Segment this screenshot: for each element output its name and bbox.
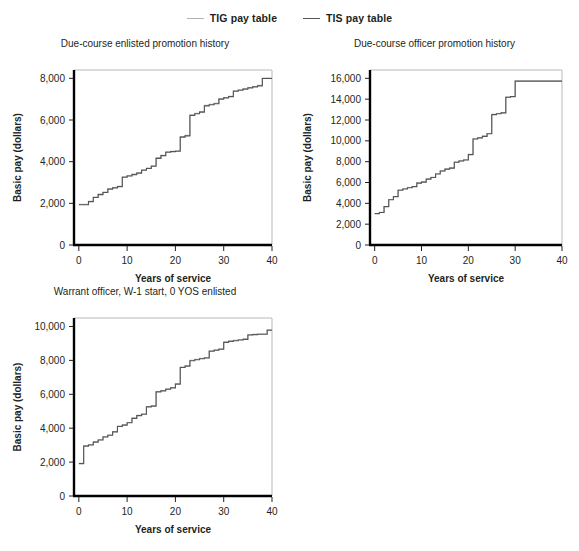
svg-text:30: 30: [218, 255, 230, 266]
series-line-tig: [375, 81, 562, 214]
svg-text:4,000: 4,000: [40, 423, 65, 434]
svg-text:0: 0: [76, 255, 82, 266]
svg-text:6,000: 6,000: [40, 389, 65, 400]
svg-text:8,000: 8,000: [40, 73, 65, 84]
svg-text:8,000: 8,000: [336, 156, 361, 167]
svg-text:10,000: 10,000: [330, 135, 361, 146]
series-line-tis: [79, 79, 272, 205]
svg-text:12,000: 12,000: [330, 115, 361, 126]
svg-text:0: 0: [355, 240, 361, 251]
series-line-tig: [79, 330, 272, 463]
legend-label-tig: TIG pay table: [210, 12, 277, 24]
svg-text:30: 30: [218, 506, 230, 517]
svg-text:40: 40: [556, 255, 568, 266]
svg-text:2,000: 2,000: [40, 198, 65, 209]
svg-text:16,000: 16,000: [330, 73, 361, 84]
plot-area-warrant-officer: 02,0004,0006,0008,00010,000010203040: [0, 292, 286, 530]
legend-entry-tis: TIS pay table: [303, 12, 392, 24]
series-line-tis: [79, 330, 272, 463]
series-line-tis: [375, 81, 562, 214]
svg-text:30: 30: [510, 255, 522, 266]
svg-text:0: 0: [76, 506, 82, 517]
panel-enlisted: Due-course enlisted promotion history Ba…: [0, 38, 290, 286]
legend-entry-tig: TIG pay table: [187, 12, 277, 24]
legend-label-tis: TIS pay table: [326, 12, 392, 24]
svg-text:10: 10: [416, 255, 428, 266]
svg-text:4,000: 4,000: [336, 198, 361, 209]
panel-officer: Due-course officer promotion history Bas…: [290, 38, 579, 286]
series-line-tig: [79, 78, 272, 204]
svg-text:0: 0: [59, 240, 65, 251]
svg-text:6,000: 6,000: [336, 177, 361, 188]
panel-warrant-officer: Warrant officer, W-1 start, 0 YOS enlist…: [0, 286, 290, 534]
svg-text:14,000: 14,000: [330, 94, 361, 105]
svg-text:20: 20: [463, 255, 475, 266]
x-axis-label-warrant-officer: Years of service: [34, 524, 312, 535]
x-axis-label-officer: Years of service: [330, 273, 579, 284]
line-swatch-icon: [187, 18, 204, 19]
svg-text:10: 10: [122, 506, 134, 517]
svg-text:20: 20: [170, 506, 182, 517]
svg-text:10: 10: [122, 255, 134, 266]
svg-text:6,000: 6,000: [40, 115, 65, 126]
svg-text:40: 40: [266, 506, 278, 517]
line-swatch-icon: [303, 18, 320, 19]
chart-legend: TIG pay table TIS pay table: [0, 12, 579, 24]
plot-area-enlisted: 02,0004,0006,0008,000010203040: [0, 44, 286, 279]
svg-text:40: 40: [266, 255, 278, 266]
svg-text:10,000: 10,000: [34, 321, 65, 332]
svg-text:4,000: 4,000: [40, 156, 65, 167]
svg-text:8,000: 8,000: [40, 355, 65, 366]
svg-text:0: 0: [372, 255, 378, 266]
svg-text:0: 0: [59, 491, 65, 502]
svg-text:2,000: 2,000: [336, 219, 361, 230]
svg-text:20: 20: [170, 255, 182, 266]
x-axis-label-enlisted: Years of service: [34, 273, 312, 284]
plot-area-officer: 02,0004,0006,0008,00010,00012,00014,0001…: [290, 44, 576, 279]
pay-table-figure: TIG pay table TIS pay table Due-course e…: [0, 0, 579, 551]
svg-text:2,000: 2,000: [40, 457, 65, 468]
